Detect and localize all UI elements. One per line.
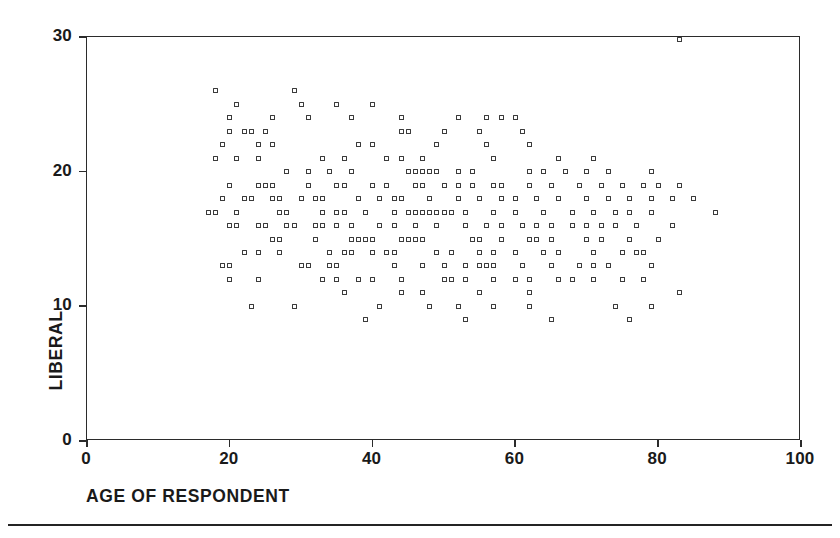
data-point (649, 263, 654, 268)
data-point (484, 263, 489, 268)
data-point (242, 250, 247, 255)
data-point (677, 183, 682, 188)
data-point (520, 263, 525, 268)
data-point (613, 304, 618, 309)
data-point (334, 277, 339, 282)
data-point (227, 263, 232, 268)
data-point (620, 250, 625, 255)
data-point (234, 223, 239, 228)
data-point (256, 277, 261, 282)
data-point (356, 196, 361, 201)
data-point (263, 223, 268, 228)
data-point (413, 169, 418, 174)
data-point (342, 290, 347, 295)
data-point (299, 263, 304, 268)
data-point (584, 223, 589, 228)
data-point (263, 183, 268, 188)
x-tick-mark (229, 440, 231, 447)
data-point (249, 196, 254, 201)
data-point (627, 210, 632, 215)
y-axis-title: LIBERAL (46, 291, 67, 411)
data-point (349, 115, 354, 120)
data-point (563, 169, 568, 174)
data-point (541, 169, 546, 174)
data-point (327, 250, 332, 255)
data-point (541, 210, 546, 215)
data-point (384, 156, 389, 161)
data-point (527, 142, 532, 147)
data-point (327, 263, 332, 268)
data-point (406, 237, 411, 242)
data-point (656, 237, 661, 242)
data-point (527, 304, 532, 309)
data-point (392, 210, 397, 215)
data-point (334, 210, 339, 215)
data-point (599, 223, 604, 228)
data-point (256, 183, 261, 188)
data-point (420, 183, 425, 188)
data-point (263, 129, 268, 134)
data-point (456, 169, 461, 174)
x-tick-label: 60 (474, 449, 554, 469)
data-point (342, 183, 347, 188)
x-tick-mark (372, 440, 374, 447)
data-point (420, 263, 425, 268)
data-point (270, 196, 275, 201)
y-tick-label: 30 (0, 26, 72, 46)
data-point (363, 210, 368, 215)
data-point (556, 156, 561, 161)
data-point (591, 263, 596, 268)
data-point (220, 142, 225, 147)
data-point (349, 223, 354, 228)
data-point (413, 237, 418, 242)
data-point (206, 210, 211, 215)
data-point (292, 304, 297, 309)
data-point (513, 277, 518, 282)
data-point (270, 183, 275, 188)
data-point (434, 250, 439, 255)
data-point (234, 210, 239, 215)
data-point (342, 156, 347, 161)
data-point (649, 210, 654, 215)
data-point (606, 196, 611, 201)
x-tick-label: 40 (332, 449, 412, 469)
data-point (549, 183, 554, 188)
data-point (320, 156, 325, 161)
data-point (277, 196, 282, 201)
data-point (427, 304, 432, 309)
data-point (484, 223, 489, 228)
data-point (527, 169, 532, 174)
data-point (413, 183, 418, 188)
data-point (299, 102, 304, 107)
data-point (527, 290, 532, 295)
data-point (377, 196, 382, 201)
data-point (613, 210, 618, 215)
data-point (477, 250, 482, 255)
data-point (491, 304, 496, 309)
data-point (584, 169, 589, 174)
data-point (491, 183, 496, 188)
data-point (399, 196, 404, 201)
data-point (463, 277, 468, 282)
data-point (570, 210, 575, 215)
data-point (370, 277, 375, 282)
data-point (256, 156, 261, 161)
data-point (427, 196, 432, 201)
y-tick-mark (79, 36, 86, 38)
data-point (449, 210, 454, 215)
scatter-plot-figure: 020406080100 0102030 AGE OF RESPONDENT L… (0, 0, 840, 538)
data-point (677, 37, 682, 42)
data-point (491, 210, 496, 215)
data-point (334, 183, 339, 188)
data-point (413, 210, 418, 215)
data-point (449, 250, 454, 255)
x-tick-mark (657, 440, 659, 447)
data-point (599, 183, 604, 188)
data-point (313, 196, 318, 201)
data-point (591, 156, 596, 161)
data-point (491, 263, 496, 268)
data-point (584, 196, 589, 201)
data-point (591, 210, 596, 215)
data-point (384, 183, 389, 188)
data-point (520, 129, 525, 134)
